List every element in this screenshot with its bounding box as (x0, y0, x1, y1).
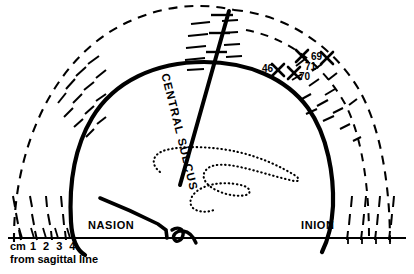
x-marker-69-right (321, 52, 333, 64)
hatch-bottom-right (347, 196, 394, 240)
marker-label-70: 70 (299, 71, 310, 82)
outer-scalp-arc-dashed-right (234, 10, 390, 242)
inion-label: INION (301, 219, 335, 231)
hatch-upper-left (58, 56, 106, 137)
cm-tick-4: 4 (69, 240, 75, 252)
nose-profile (100, 198, 167, 238)
cm-tick-2: 2 (43, 240, 49, 252)
cm-scale-labels: cm1234 (10, 240, 75, 252)
cm-unit-label: cm (10, 240, 26, 252)
cm-scale-ticks (19, 228, 70, 238)
cm-tick-3: 3 (56, 240, 62, 252)
diagram-svg (0, 0, 414, 274)
figure-canvas: CENTRAL SULCUS NASION INION cm1234 from … (0, 0, 414, 274)
nasion-label: NASION (88, 219, 134, 231)
x-marker-46 (272, 64, 284, 76)
sagittal-line-caption: from sagittal line (10, 253, 98, 265)
cm-tick-1: 1 (30, 240, 36, 252)
ventricle-contour-dotted (154, 147, 299, 212)
marker-label-46: 46 (262, 63, 273, 74)
nasal-spine-detail (172, 228, 196, 243)
